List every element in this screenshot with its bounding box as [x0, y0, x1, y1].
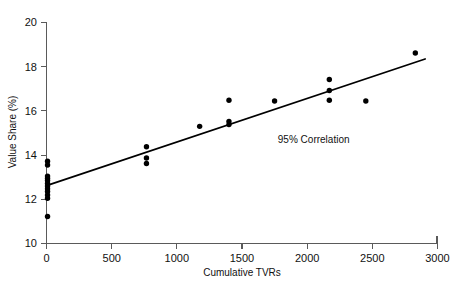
- y-tick-label: 14: [25, 149, 37, 161]
- data-point: [413, 50, 418, 55]
- data-point: [45, 162, 50, 167]
- x-tick-label: 1500: [230, 252, 254, 264]
- y-tick-labels: 10 12 14 16 18 20: [25, 16, 37, 249]
- x-axis-title: Cumulative TVRs: [203, 267, 281, 278]
- data-point: [197, 124, 202, 129]
- scatter-chart: 10 12 14 16 18 20 0 500 1000 1500 2000 2…: [0, 0, 462, 288]
- data-points-layer: [45, 50, 418, 219]
- x-tick-labels: 0 500 1000 1500 2000 2500 3000: [43, 252, 449, 264]
- data-point: [363, 98, 368, 103]
- y-axis-title: Value Share (%): [7, 96, 18, 169]
- data-point: [226, 98, 231, 103]
- y-tick-label: 10: [25, 237, 37, 249]
- x-tick-label: 0: [43, 252, 49, 264]
- x-tick-label: 500: [103, 252, 121, 264]
- data-point: [226, 122, 231, 127]
- correlation-annotation: 95% Correlation: [278, 134, 350, 145]
- data-point: [327, 98, 332, 103]
- y-tick-label: 16: [25, 105, 37, 117]
- data-point: [327, 77, 332, 82]
- data-point: [272, 98, 277, 103]
- data-point: [144, 155, 149, 160]
- x-tick-marks: [47, 244, 438, 250]
- y-tick-label: 12: [25, 193, 37, 205]
- y-tick-label: 20: [25, 16, 37, 28]
- x-tick-label: 2500: [360, 252, 384, 264]
- y-tick-marks: [41, 23, 46, 244]
- x-tick-label: 1000: [165, 252, 189, 264]
- data-point: [144, 161, 149, 166]
- x-tick-label: 2000: [295, 252, 319, 264]
- data-point: [327, 88, 332, 93]
- data-point: [144, 144, 149, 149]
- x-tick-label: 3000: [425, 252, 449, 264]
- data-point: [45, 195, 50, 200]
- y-tick-label: 18: [25, 61, 37, 73]
- plot-svg: 10 12 14 16 18 20 0 500 1000 1500 2000 2…: [0, 0, 462, 288]
- regression-line: [47, 59, 426, 186]
- data-point: [45, 214, 50, 219]
